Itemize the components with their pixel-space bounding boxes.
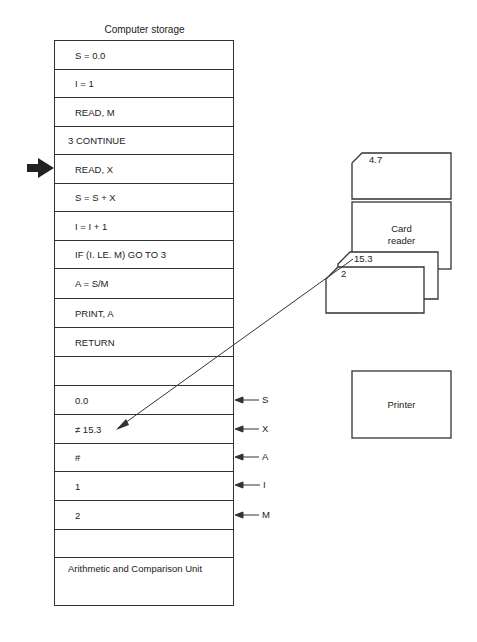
- variable-label-m: M: [262, 509, 270, 520]
- instruction-text: READ, M: [55, 107, 115, 118]
- variable-value: 1: [55, 481, 80, 492]
- storage-row: S = S + X: [55, 184, 233, 212]
- arrow-right-icon: [27, 158, 54, 178]
- variable-value: #: [55, 452, 80, 463]
- instruction-text: A = S/M: [55, 278, 109, 289]
- instruction-text: I = I + 1: [55, 221, 107, 232]
- variable-cell-x: ≠ 15.3: [55, 415, 233, 444]
- storage-row-empty: [55, 530, 233, 558]
- back-card-value: 15.3: [354, 253, 373, 264]
- storage-row: S = 0.0: [55, 41, 233, 70]
- instruction-text: READ, X: [55, 164, 113, 175]
- card-reader-label: Card reader: [352, 222, 451, 248]
- front-card-value: 2: [341, 268, 346, 279]
- variable-value: 2: [55, 510, 80, 521]
- storage-row-empty: [55, 357, 233, 386]
- top-card-value: 4.7: [369, 154, 382, 165]
- variable-cell-s: 0.0: [55, 386, 233, 415]
- variable-cell-a: #: [55, 444, 233, 472]
- variable-cell-i: 1: [55, 472, 233, 501]
- instruction-text: S = 0.0: [55, 50, 105, 61]
- instruction-text: IF (I. LE. M) GO TO 3: [55, 249, 166, 260]
- storage-row: 3 CONTINUE: [55, 127, 233, 155]
- arrow-left-icon: [235, 397, 260, 518]
- storage-row: PRINT, A: [55, 299, 233, 328]
- variable-label-a: A: [262, 451, 268, 462]
- instruction-text: I = 1: [55, 78, 94, 89]
- card-reader-label-line2: reader: [388, 235, 415, 247]
- variable-value: ≠ 15.3: [55, 424, 101, 435]
- card-reader-label-line1: Card: [391, 223, 412, 235]
- variable-label-i: I: [263, 479, 266, 490]
- storage-row: A = S/M: [55, 269, 233, 299]
- variable-value: 0.0: [55, 395, 88, 406]
- instruction-text: RETURN: [55, 337, 115, 348]
- storage-title: Computer storage: [54, 24, 235, 35]
- variable-label-s: S: [262, 394, 268, 405]
- instruction-text: 3 CONTINUE: [55, 135, 126, 146]
- arithmetic-unit-label: Arithmetic and Comparison Unit: [68, 563, 202, 574]
- computer-storage: S = 0.0 I = 1 READ, M 3 CONTINUE READ, X…: [54, 40, 234, 606]
- storage-row: IF (I. LE. M) GO TO 3: [55, 241, 233, 269]
- input-card-top: [352, 153, 451, 199]
- printer-label: Printer: [352, 371, 451, 438]
- storage-row: RETURN: [55, 328, 233, 357]
- instruction-text: S = S + X: [55, 192, 116, 203]
- storage-row: I = 1: [55, 70, 233, 98]
- input-card-back: [338, 252, 438, 299]
- storage-row-current: READ, X: [55, 155, 233, 184]
- instruction-text: PRINT, A: [55, 308, 114, 319]
- storage-row: READ, M: [55, 98, 233, 127]
- variable-cell-m: 2: [55, 501, 233, 530]
- variable-label-x: X: [262, 423, 268, 434]
- storage-row: I = I + 1: [55, 212, 233, 241]
